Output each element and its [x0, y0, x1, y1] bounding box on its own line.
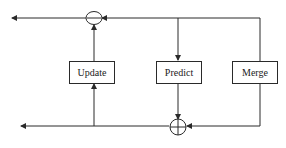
- update-block: Update: [69, 61, 115, 84]
- add-junction: [170, 119, 186, 135]
- predict-block: Predict: [156, 61, 202, 84]
- update-label: Update: [78, 67, 107, 78]
- predict-label: Predict: [165, 67, 193, 78]
- merge-label: Merge: [242, 67, 268, 78]
- subtract-junction: [86, 12, 102, 25]
- merge-block: Merge: [232, 61, 278, 84]
- lifting-scheme-diagram: Update Predict Merge: [0, 0, 286, 148]
